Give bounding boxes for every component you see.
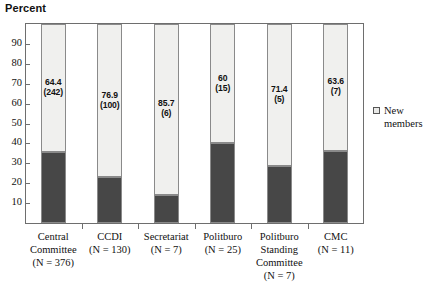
y-tick-label: 30 xyxy=(2,156,22,167)
legend-label-new-members: New members xyxy=(384,104,434,130)
x-axis-category-label-line: CMC xyxy=(303,230,370,243)
bar-value-count: (242) xyxy=(38,87,69,97)
y-tick-label: 40 xyxy=(2,136,22,147)
y-tick-label: 50 xyxy=(2,117,22,128)
y-axis-title: Percent xyxy=(5,2,46,14)
x-axis-category-label-line: (N = 7) xyxy=(246,269,313,282)
y-tick-label: 90 xyxy=(2,37,22,48)
y-tick-mark xyxy=(25,64,30,65)
x-tick-mark xyxy=(251,224,252,229)
x-axis-category-label-line: (N = 376) xyxy=(20,256,87,269)
legend-swatch-new-members xyxy=(373,107,380,114)
x-tick-mark xyxy=(82,224,83,229)
bar-value-percent: 63.6 xyxy=(323,76,348,86)
bar-value-count: (5) xyxy=(264,94,295,104)
legend: New members xyxy=(373,104,434,130)
bar-value-percent: 60 xyxy=(210,73,235,83)
bar-value-count: (100) xyxy=(94,100,125,110)
x-axis-category-label-line: Committee xyxy=(246,256,313,269)
x-tick-mark xyxy=(195,224,196,229)
y-tick-label: 80 xyxy=(2,57,22,68)
x-axis-category-label: CMC(N = 11) xyxy=(303,230,370,256)
y-tick-label: 60 xyxy=(2,97,22,108)
x-tick-mark xyxy=(138,224,139,229)
y-tick-mark xyxy=(25,44,30,45)
bar-value-percent: 85.7 xyxy=(154,98,179,108)
bar-value-count: (7) xyxy=(320,86,351,96)
bar-segment-incumbents xyxy=(97,177,122,223)
y-tick-mark xyxy=(25,124,30,125)
y-tick-label: 10 xyxy=(2,196,22,207)
y-tick-label: 20 xyxy=(2,176,22,187)
y-tick-mark xyxy=(25,183,30,184)
bar-value-percent: 76.9 xyxy=(97,90,122,100)
y-tick-label: 70 xyxy=(2,77,22,88)
y-tick-mark xyxy=(25,203,30,204)
x-axis-category-label-line: (N = 11) xyxy=(303,243,370,256)
y-tick-mark xyxy=(25,143,30,144)
x-tick-mark xyxy=(308,224,309,229)
bar-value-count: (6) xyxy=(151,108,182,118)
bar-value-percent: 71.4 xyxy=(267,84,292,94)
bar-segment-incumbents xyxy=(210,143,235,223)
bar-value-percent: 64.4 xyxy=(41,77,66,87)
stacked-bar-chart: Percent 908070605040302010 64.4(242)76.9… xyxy=(0,0,434,286)
y-tick-mark xyxy=(25,84,30,85)
bar-segment-incumbents xyxy=(267,166,292,223)
y-tick-mark xyxy=(25,104,30,105)
plot-frame xyxy=(25,23,364,224)
bar-segment-incumbents xyxy=(323,151,348,223)
bar-segment-incumbents xyxy=(41,152,66,223)
y-tick-mark xyxy=(25,163,30,164)
bar-segment-incumbents xyxy=(154,195,179,223)
bar-value-count: (15) xyxy=(207,83,238,93)
